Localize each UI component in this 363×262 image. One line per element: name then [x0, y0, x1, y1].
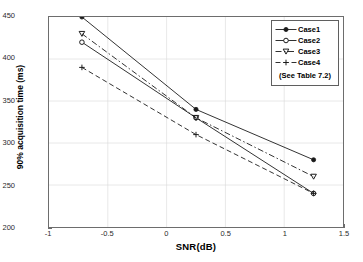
- x-tick-label: -1: [28, 230, 68, 238]
- y-tick-label: 200: [0, 224, 15, 232]
- x-tick-label: 0.5: [206, 230, 246, 238]
- x-axis-label: SNR(dB): [48, 241, 344, 252]
- legend-sample-filled-dot-icon: [274, 24, 298, 35]
- y-tick-label: 350: [0, 97, 15, 105]
- x-tick-label: -0.5: [87, 230, 127, 238]
- legend-label: Case4: [298, 57, 320, 68]
- legend-entries: Case1Case2Case3Case4: [274, 24, 336, 68]
- y-tick-label: 300: [0, 139, 15, 147]
- x-tick-mark: [344, 224, 345, 228]
- y-tick-label: 450: [0, 12, 15, 20]
- chart-legend: Case1Case2Case3Case4 (See Table 7.2): [271, 20, 339, 86]
- legend-label: Case3: [298, 46, 320, 57]
- y-tick-label: 250: [0, 182, 15, 190]
- x-tick-label: 1.5: [324, 230, 363, 238]
- y-tick-label: 400: [0, 54, 15, 62]
- legend-item-case1[interactable]: Case1: [274, 24, 336, 35]
- chart-figure: 200250300350400450 -1-0.500.511.5 90% ac…: [0, 0, 363, 262]
- legend-note: (See Table 7.2): [274, 68, 336, 82]
- legend-sample-plus-icon: [274, 57, 298, 68]
- legend-item-case2[interactable]: Case2: [274, 35, 336, 46]
- legend-item-case4[interactable]: Case4: [274, 57, 336, 68]
- x-tick-label: 1: [265, 230, 305, 238]
- legend-item-case3[interactable]: Case3: [274, 46, 336, 57]
- legend-label: Case2: [298, 35, 320, 46]
- y-axis-label: 90% acquisition time (ms): [15, 11, 25, 223]
- x-tick-label: 0: [146, 230, 186, 238]
- legend-label: Case1: [298, 24, 320, 35]
- legend-sample-triangle-down-icon: [274, 46, 298, 57]
- legend-sample-open-circle-icon: [274, 35, 298, 46]
